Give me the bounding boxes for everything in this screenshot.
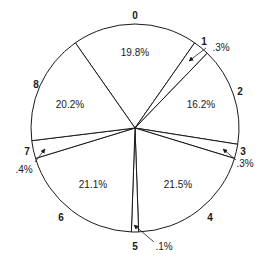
value-label-1: .3% (212, 42, 229, 53)
value-label-3: .3% (236, 158, 253, 169)
value-label-2: 16.2% (187, 99, 215, 110)
category-label-5: 5 (132, 241, 138, 252)
category-label-2: 2 (237, 86, 243, 97)
value-label-5: .1% (155, 241, 172, 252)
value-label-6: 21.1% (79, 179, 107, 190)
category-label-8: 8 (33, 79, 39, 90)
category-label-4: 4 (207, 212, 213, 223)
category-label-3: 3 (240, 146, 246, 157)
value-label-7: .4% (15, 164, 32, 175)
category-label-6: 6 (58, 212, 64, 223)
category-label-1: 1 (201, 36, 207, 47)
value-label-8: 20.2% (56, 99, 84, 110)
pie-chart: 01234567819.8%.3%16.2%.3%21.5%.1%21.1%.4… (0, 0, 269, 266)
value-label-0: 19.8% (121, 47, 149, 58)
value-label-4: 21.5% (164, 179, 192, 190)
category-label-0: 0 (132, 10, 138, 21)
category-label-7: 7 (24, 146, 30, 157)
